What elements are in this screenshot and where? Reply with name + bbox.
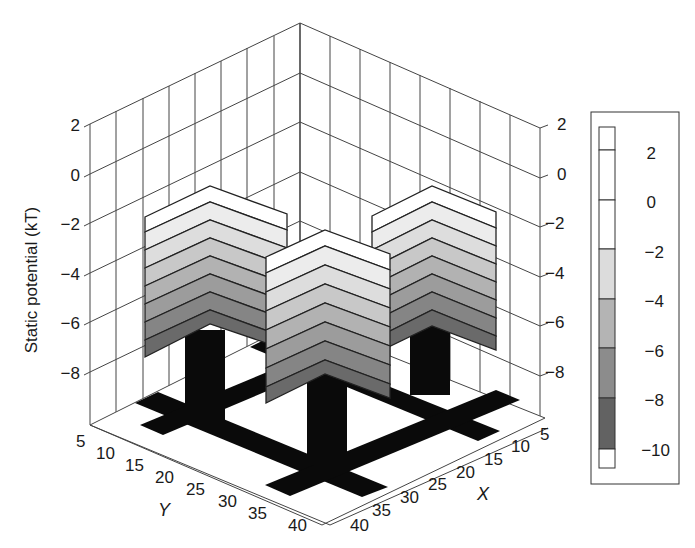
x-axis-label: X bbox=[476, 484, 490, 504]
colorbar-tick-label: −8 bbox=[645, 391, 664, 410]
z-axis-right: 2 0 −2 −4 −6 −8 bbox=[540, 115, 566, 382]
x-tick-label: 15 bbox=[484, 450, 503, 469]
colorbar-tick-label: −6 bbox=[645, 342, 664, 361]
3d-potential-plot: 2 0 −2 −4 −6 −8 Static potential (kT) 2 … bbox=[0, 0, 695, 548]
colorbar: 2 0 −2 −4 −6 −8 −10 bbox=[591, 112, 679, 484]
y-tick-label: 25 bbox=[186, 480, 205, 499]
z-axis-left: 2 0 −2 −4 −6 −8 Static potential (kT) bbox=[22, 116, 90, 383]
x-tick-label: 40 bbox=[350, 516, 369, 535]
z-tick-label: 0 bbox=[71, 166, 80, 185]
z-tick-label: −4 bbox=[545, 264, 564, 283]
z-tick-label: −6 bbox=[545, 313, 564, 332]
colorbar-tick-label: −2 bbox=[645, 243, 664, 262]
z-tick-label: −4 bbox=[61, 265, 80, 284]
colorbar-tick-label: 0 bbox=[647, 193, 656, 212]
x-tick-label: 25 bbox=[428, 475, 447, 494]
x-tick-label: 30 bbox=[400, 488, 419, 507]
x-tick-label: 20 bbox=[456, 463, 475, 482]
y-axis-label: Y bbox=[158, 500, 172, 520]
y-tick-label: 40 bbox=[288, 516, 307, 535]
y-tick-label: 35 bbox=[248, 504, 267, 523]
y-tick-label: 15 bbox=[125, 456, 144, 475]
x-tick-label: 5 bbox=[540, 425, 549, 444]
z-tick-label: −2 bbox=[545, 214, 564, 233]
colorbar-tick-label: −10 bbox=[641, 441, 670, 460]
z-tick-label: −8 bbox=[545, 363, 564, 382]
z-tick-label: −2 bbox=[61, 215, 80, 234]
colorbar-tick-label: 2 bbox=[647, 144, 656, 163]
y-tick-label: 20 bbox=[155, 468, 174, 487]
x-tick-label: 35 bbox=[372, 501, 391, 520]
z-tick-label: 2 bbox=[557, 115, 566, 134]
z-tick-label: 2 bbox=[71, 116, 80, 135]
colorbar-tick-label: −4 bbox=[645, 292, 664, 311]
z-axis-label: Static potential (kT) bbox=[22, 207, 41, 353]
y-tick-label: 10 bbox=[96, 444, 115, 463]
y-tick-label: 30 bbox=[218, 492, 237, 511]
z-tick-label: 0 bbox=[557, 165, 566, 184]
y-tick-label: 5 bbox=[76, 432, 85, 451]
x-tick-label: 10 bbox=[511, 437, 530, 456]
z-tick-label: −8 bbox=[61, 364, 80, 383]
z-tick-label: −6 bbox=[61, 314, 80, 333]
